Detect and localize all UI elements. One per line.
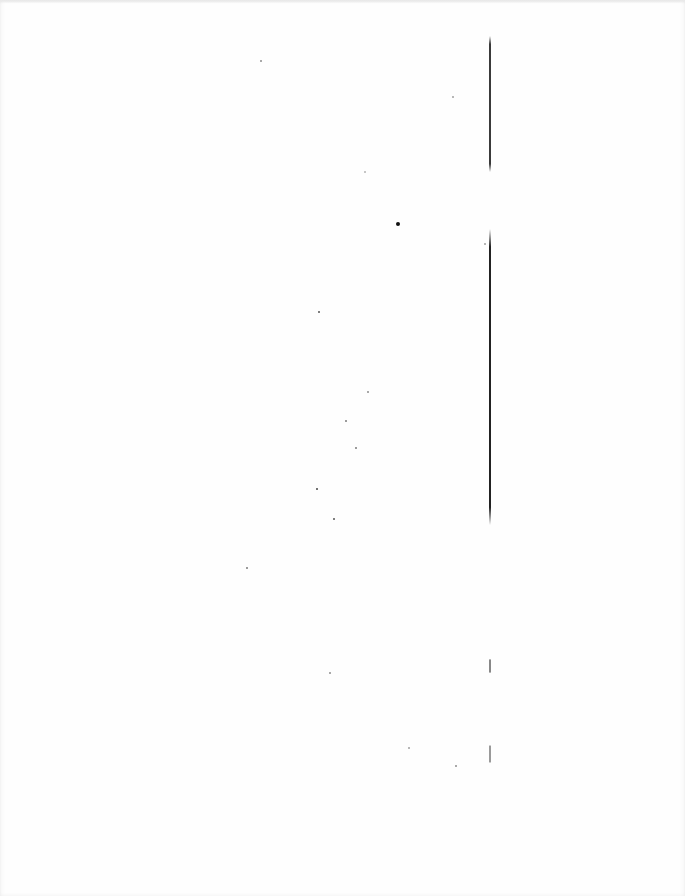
scan-speck (364, 171, 366, 173)
scan-speck (455, 765, 457, 767)
scanned-document-page (0, 0, 685, 896)
scan-speck (408, 747, 410, 749)
scan-speck (367, 391, 369, 393)
scan-speck (318, 311, 320, 313)
scan-speck (316, 488, 318, 490)
vertical-margin-rule (489, 36, 491, 172)
scan-speck (452, 96, 454, 98)
scan-speck (484, 243, 486, 245)
scan-speck (329, 672, 331, 674)
scan-speck (260, 60, 262, 62)
scan-speck (333, 518, 335, 520)
vertical-margin-rule (489, 745, 491, 763)
vertical-margin-rule (489, 229, 491, 525)
scan-speck (345, 420, 347, 422)
scan-speck (396, 222, 400, 226)
vertical-margin-rule (489, 659, 491, 673)
scan-speck (246, 567, 248, 569)
page-top-edge-shadow (0, 0, 685, 3)
scan-speck (355, 447, 357, 449)
